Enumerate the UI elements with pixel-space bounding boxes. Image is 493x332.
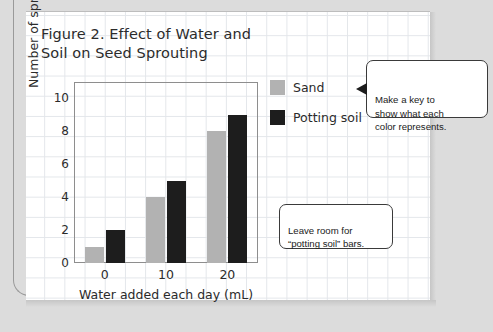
legend-swatch-potting-soil-icon	[270, 110, 285, 125]
legend-item-sand: Sand	[270, 80, 362, 95]
legend-label-sand: Sand	[293, 80, 324, 95]
y-tick-0: 0	[61, 256, 69, 270]
bar-group	[74, 82, 258, 263]
y-tick-2: 2	[61, 223, 69, 237]
x-tick-20: 20	[219, 267, 235, 282]
callout-leave-room-text: Leave room for “potting soil” bars.	[288, 225, 364, 249]
callout-tail-left-icon	[356, 83, 367, 95]
bar-chart: 0246810 01020 Number of sprouting seeds …	[74, 82, 258, 263]
legend-label-potting-soil: Potting soil	[293, 110, 362, 125]
legend-item-potting-soil: Potting soil	[270, 110, 362, 125]
legend-swatch-sand-icon	[270, 80, 285, 95]
callout-make-a-key-text: Make a key to show what each color repre…	[375, 94, 446, 131]
y-tick-10: 10	[54, 91, 69, 105]
bar-potting-soil-10	[167, 181, 186, 263]
bar-sand-0	[85, 247, 104, 263]
callout-leave-room: Leave room for “potting soil” bars.	[279, 204, 393, 249]
x-axis-label: Water added each day (mL)	[79, 287, 253, 302]
x-tick-10: 10	[158, 267, 174, 282]
bar-sand-20	[207, 131, 226, 263]
screenshot-root: Figure 2. Effect of Water and Soil on Se…	[0, 0, 493, 332]
bar-potting-soil-20	[228, 115, 247, 263]
y-tick-6: 6	[61, 157, 69, 171]
page-shadow-right	[430, 12, 436, 300]
chart-legend: Sand Potting soil	[270, 80, 362, 140]
bar-potting-soil-0	[106, 230, 125, 263]
x-tick-0: 0	[101, 267, 109, 282]
y-tick-8: 8	[61, 124, 69, 138]
y-tick-4: 4	[61, 190, 69, 204]
y-axis-label: Number of sprouting seeds	[26, 0, 41, 88]
bar-sand-10	[146, 197, 165, 263]
callout-make-a-key: Make a key to show what each color repre…	[366, 60, 488, 118]
figure-title: Figure 2. Effect of Water and Soil on Se…	[41, 25, 321, 62]
